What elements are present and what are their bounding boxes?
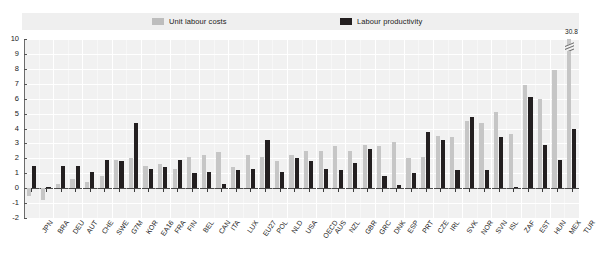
bar-unit-labour-costs[interactable] [158,164,162,188]
bar-labour-productivity[interactable] [46,187,50,188]
bar-labour-productivity[interactable] [324,169,328,188]
bar-labour-productivity[interactable] [441,140,445,188]
bar-unit-labour-costs[interactable] [289,155,293,188]
bar-group[interactable] [272,39,287,218]
bar-group[interactable] [433,39,448,218]
bar-group[interactable] [491,39,506,218]
bar-labour-productivity[interactable] [265,140,269,188]
bar-unit-labour-costs[interactable] [333,146,337,188]
bar-group[interactable] [155,39,170,218]
bar-labour-productivity[interactable] [412,173,416,188]
bar-unit-labour-costs[interactable] [392,142,396,188]
bar-labour-productivity[interactable] [222,184,226,188]
bar-labour-productivity[interactable] [558,160,562,188]
bar-unit-labour-costs[interactable] [173,169,177,188]
bar-group[interactable] [389,39,404,218]
bar-labour-productivity[interactable] [192,173,196,188]
bar-unit-labour-costs[interactable] [377,146,381,188]
bar-unit-labour-costs[interactable] [187,157,191,188]
bar-group[interactable] [418,39,433,218]
bar-unit-labour-costs[interactable] [85,182,89,188]
bar-unit-labour-costs[interactable] [465,121,469,188]
bar-labour-productivity[interactable] [61,166,65,188]
bar-labour-productivity[interactable] [119,161,123,188]
bar-labour-productivity[interactable] [32,166,36,188]
bar-unit-labour-costs[interactable] [363,145,367,188]
bar-group[interactable] [477,39,492,218]
bar-unit-labour-costs[interactable] [143,166,147,188]
bar-group[interactable] [462,39,477,218]
bar-labour-productivity[interactable] [339,170,343,188]
bar-unit-labour-costs[interactable] [202,155,206,188]
bar-labour-productivity[interactable] [353,163,357,188]
bar-labour-productivity[interactable] [368,149,372,188]
bar-unit-labour-costs[interactable] [27,188,31,195]
bar-group[interactable] [360,39,375,218]
bar-unit-labour-costs[interactable] [41,188,45,200]
bar-group[interactable] [141,39,156,218]
bar-group[interactable] [521,39,536,218]
bar-group[interactable] [550,39,565,218]
bar-labour-productivity[interactable] [149,169,153,188]
bar-unit-labour-costs[interactable] [216,152,220,188]
bar-group[interactable] [53,39,68,218]
bar-labour-productivity[interactable] [397,185,401,188]
bar-labour-productivity[interactable] [309,161,313,188]
bar-labour-productivity[interactable] [134,123,138,189]
bar-labour-productivity[interactable] [572,129,576,189]
bar-unit-labour-costs[interactable] [567,39,571,188]
bar-group[interactable] [287,39,302,218]
bar-unit-labour-costs[interactable] [319,151,323,188]
bar-group[interactable] [535,39,550,218]
bar-labour-productivity[interactable] [426,132,430,189]
bar-unit-labour-costs[interactable] [421,157,425,188]
bar-group[interactable] [112,39,127,218]
bar-labour-productivity[interactable] [514,187,518,188]
bar-labour-productivity[interactable] [280,172,284,188]
bar-group[interactable] [404,39,419,218]
bar-group[interactable] [170,39,185,218]
bar-labour-productivity[interactable] [528,97,532,188]
bar-labour-productivity[interactable] [90,172,94,188]
bar-unit-labour-costs[interactable] [523,85,527,188]
bar-unit-labour-costs[interactable] [56,184,60,188]
bar-labour-productivity[interactable] [455,170,459,188]
bar-group[interactable] [126,39,141,218]
bar-labour-productivity[interactable] [236,170,240,188]
bar-group[interactable] [185,39,200,218]
bar-group[interactable] [199,39,214,218]
bar-unit-labour-costs[interactable] [100,176,104,188]
bar-group[interactable] [39,39,54,218]
bar-unit-labour-costs[interactable] [348,151,352,188]
bar-group[interactable] [375,39,390,218]
bar-group[interactable] [214,39,229,218]
bar-labour-productivity[interactable] [105,160,109,188]
bar-group[interactable] [228,39,243,218]
bar-unit-labour-costs[interactable] [304,151,308,188]
bar-labour-productivity[interactable] [485,170,489,188]
bar-unit-labour-costs[interactable] [260,157,264,188]
bar-unit-labour-costs[interactable] [450,137,454,188]
bar-group[interactable] [82,39,97,218]
bar-unit-labour-costs[interactable] [275,161,279,188]
bar-group[interactable] [258,39,273,218]
bar-unit-labour-costs[interactable] [509,134,513,188]
bar-labour-productivity[interactable] [295,158,299,188]
bar-labour-productivity[interactable] [251,169,255,188]
bar-unit-labour-costs[interactable] [246,155,250,188]
bar-unit-labour-costs[interactable] [494,112,498,188]
bar-group[interactable] [448,39,463,218]
bar-unit-labour-costs[interactable] [231,167,235,188]
bar-unit-labour-costs[interactable] [552,70,556,188]
bar-group[interactable] [331,39,346,218]
bar-labour-productivity[interactable] [499,137,503,188]
bar-unit-labour-costs[interactable] [114,160,118,188]
bar-unit-labour-costs[interactable] [129,158,133,188]
bar-group[interactable] [68,39,83,218]
bar-labour-productivity[interactable] [470,117,474,189]
bar-unit-labour-costs[interactable] [70,179,74,188]
bar-labour-productivity[interactable] [76,166,80,188]
bar-group[interactable] [316,39,331,218]
bar-labour-productivity[interactable] [178,160,182,188]
bar-group[interactable] [243,39,258,218]
